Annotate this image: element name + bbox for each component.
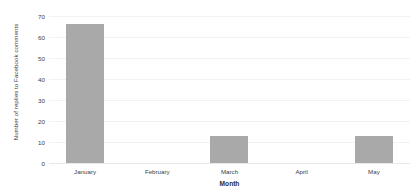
bar-group: February (121, 16, 193, 163)
y-tick-label: 10 (38, 139, 45, 146)
bars: JanuaryFebruaryMarchAprilMay (49, 16, 410, 163)
bar-group: May (338, 16, 410, 163)
y-tick-label: 30 (38, 97, 45, 104)
bar-group: April (266, 16, 338, 163)
bar-group: March (193, 16, 265, 163)
y-tick-label: 40 (38, 76, 45, 83)
bar-group: January (49, 16, 121, 163)
bar (355, 136, 393, 163)
y-tick-label: 60 (38, 34, 45, 41)
bar-chart: Number of replies to Facebook comments 0… (0, 0, 412, 195)
gridline: 0 (49, 163, 410, 164)
x-axis-title: Month (49, 180, 410, 187)
bar (210, 136, 248, 163)
y-tick-label: 50 (38, 55, 45, 62)
x-tick-label: May (368, 168, 380, 175)
x-tick-label: April (295, 168, 307, 175)
bar (66, 24, 104, 163)
x-tick-label: March (221, 168, 238, 175)
x-tick-label: January (74, 168, 96, 175)
y-axis-title: Number of replies to Facebook comments (9, 2, 23, 162)
y-tick-label: 20 (38, 118, 45, 125)
plot-area: 010203040506070 JanuaryFebruaryMarchApri… (49, 16, 410, 163)
y-tick-label: 70 (38, 13, 45, 20)
y-tick-label: 0 (42, 160, 45, 167)
x-tick-label: February (145, 168, 170, 175)
